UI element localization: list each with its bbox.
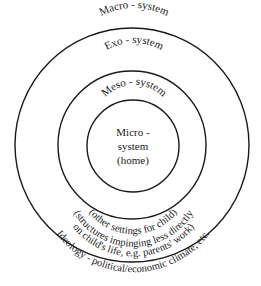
exo-system-label: Exo - system [102,33,166,52]
macro-system-label: Macro - system [97,0,171,18]
ecological-systems-diagram: Macro - system Exo - system Meso - syste… [0,0,261,286]
meso-system-label: Meso - system [99,75,170,99]
micro-system-label-line3: (home) [117,154,149,167]
micro-system-label-line1: Micro - [116,126,150,138]
micro-system-label-line2: system [118,140,149,152]
